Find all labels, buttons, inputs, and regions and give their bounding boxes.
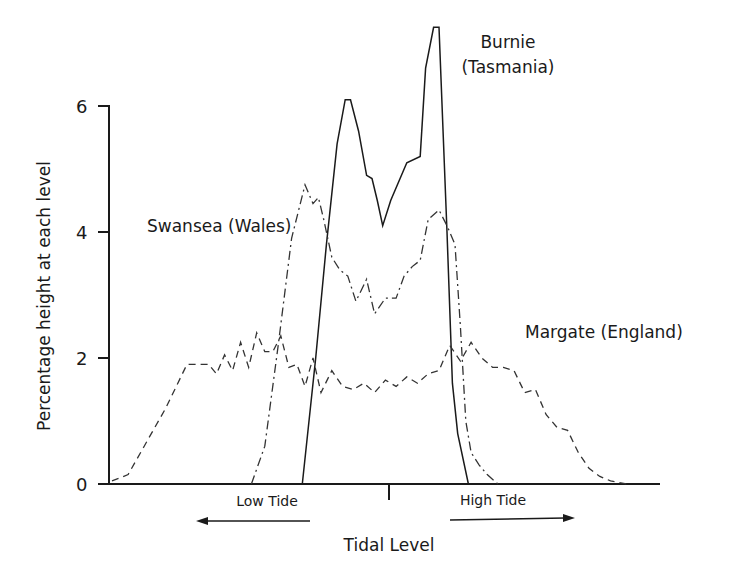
high-tide-arrow xyxy=(450,514,575,522)
series-burnie-line xyxy=(302,27,468,484)
x-axis xyxy=(108,484,660,500)
high-tide-label: High Tide xyxy=(460,492,526,508)
y-tick-2: 2 xyxy=(76,348,87,369)
label-margate: Margate (England) xyxy=(525,322,683,342)
y-tick-4: 4 xyxy=(76,222,87,243)
y-tick-0: 0 xyxy=(76,474,87,495)
label-burnie: Burnie xyxy=(480,32,535,52)
y-tick-6: 6 xyxy=(76,96,87,117)
low-tide-arrow xyxy=(196,517,310,525)
label-swansea: Swansea (Wales) xyxy=(147,216,291,236)
tidal-chart: 6 4 2 0 Percentage height at each level … xyxy=(0,0,733,578)
label-burnie-region: (Tasmania) xyxy=(461,57,554,77)
low-tide-label: Low Tide xyxy=(236,493,298,509)
y-axis-label: Percentage height at each level xyxy=(34,161,54,431)
series-margate-line xyxy=(112,333,627,484)
x-axis-label: Tidal Level xyxy=(343,535,435,555)
y-axis xyxy=(98,105,109,484)
